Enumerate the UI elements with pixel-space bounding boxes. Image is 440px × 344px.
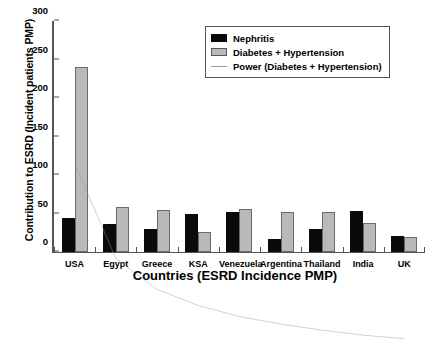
bar-diabetes-hypertension — [157, 210, 170, 252]
y-axis-tick-label: 200 — [32, 82, 54, 93]
legend-label-nephritis: Nephritis — [233, 33, 274, 44]
x-axis-tick-mark — [54, 247, 55, 252]
legend-swatch-power-trendline — [211, 62, 227, 70]
y-axis-tick-label: 0 — [43, 236, 54, 247]
x-axis-tick-mark — [95, 247, 96, 252]
bar-nephritis — [185, 214, 198, 252]
legend-swatch-nephritis — [211, 34, 227, 42]
bar-diabetes-hypertension — [239, 209, 252, 252]
x-axis-tick-mark — [136, 247, 137, 252]
legend-item-nephritis: Nephritis — [211, 31, 382, 45]
y-axis-tick-label: 300 — [32, 5, 54, 16]
bar-group: UK — [384, 21, 425, 252]
legend-item-diabetes-hypertension: Diabetes + Hypertension — [211, 45, 382, 59]
legend-swatch-diabetes-hypertension — [211, 48, 227, 56]
x-axis-tick-mark — [424, 247, 425, 252]
x-axis-tick-mark — [178, 247, 179, 252]
y-axis-tick-label: 250 — [32, 43, 54, 54]
legend-label-diabetes-hypertension: Diabetes + Hypertension — [233, 47, 344, 58]
bar-diabetes-hypertension — [198, 232, 211, 252]
legend-item-power-trendline: Power (Diabetes + Hypertension) — [211, 59, 382, 73]
x-axis-title: Countries (ESRD Incidence PMP) — [44, 268, 426, 283]
bar-nephritis — [268, 239, 281, 252]
bar-nephritis — [350, 211, 363, 252]
bar-nephritis — [144, 229, 157, 252]
bar-diabetes-hypertension — [281, 212, 294, 252]
bar-diabetes-hypertension — [116, 207, 129, 252]
bar-group: Egypt — [95, 21, 136, 252]
bar-nephritis — [309, 229, 322, 252]
bar-diabetes-hypertension — [404, 237, 417, 252]
y-axis-tick-label: 50 — [37, 197, 54, 208]
bar-nephritis — [391, 236, 404, 252]
x-axis-tick-mark — [343, 247, 344, 252]
bar-nephritis — [103, 224, 116, 252]
x-axis-tick-mark — [260, 247, 261, 252]
bar-nephritis — [226, 212, 239, 252]
x-axis-tick-mark — [219, 247, 220, 252]
bar-nephritis — [62, 218, 75, 252]
bar-group: USA — [54, 21, 95, 252]
y-axis-tick-label: 150 — [32, 120, 54, 131]
bar-group: Greece — [136, 21, 177, 252]
x-axis-tick-mark — [384, 247, 385, 252]
chart-legend: Nephritis Diabetes + Hypertension Power … — [205, 26, 390, 78]
x-axis-tick-mark — [301, 247, 302, 252]
bar-diabetes-hypertension — [322, 212, 335, 252]
bar-diabetes-hypertension — [75, 67, 88, 252]
legend-label-power-trendline: Power (Diabetes + Hypertension) — [233, 61, 382, 72]
bar-diabetes-hypertension — [363, 223, 376, 252]
y-axis-tick-label: 100 — [32, 159, 54, 170]
